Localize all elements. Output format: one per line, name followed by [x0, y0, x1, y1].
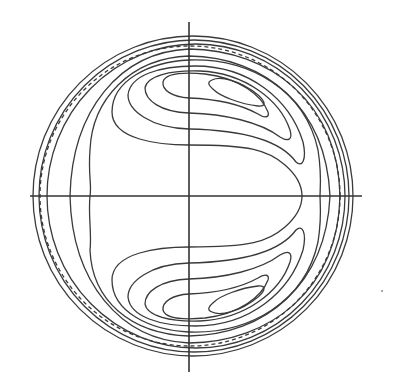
- lower-lobe: [112, 196, 321, 332]
- upper-contour-3: [145, 71, 291, 140]
- axes: [30, 22, 362, 372]
- contour-diagram: [0, 0, 393, 390]
- lower-contour-3: [145, 252, 291, 321]
- speck-artifact: [381, 290, 383, 292]
- upper-lobe: [112, 60, 321, 196]
